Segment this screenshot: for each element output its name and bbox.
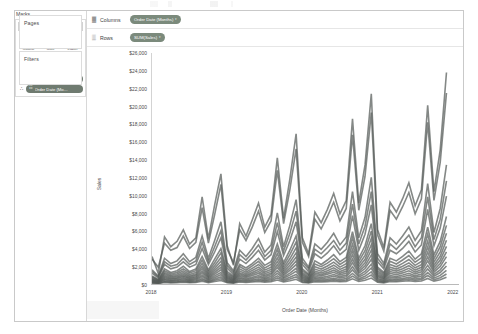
- x-axis-tick: 2021: [372, 289, 383, 295]
- detail-icon: ∴: [18, 87, 24, 92]
- marks-pill-order-date-label: Order Date (Mo…: [35, 87, 68, 92]
- columns-pill-order-date[interactable]: Order Date (Months) ▾: [130, 15, 181, 24]
- x-axis-tick-labels: 20182019202020212022: [151, 289, 459, 299]
- y-axis-tick: $14,000: [129, 158, 147, 163]
- y-axis-tick: $4,000: [132, 247, 147, 252]
- x-axis-tick: 2019: [221, 289, 232, 295]
- rows-pill-sum-sales-label: SUM(Sales): [134, 35, 157, 40]
- visualization-area[interactable]: Sales $26,000$24,000$22,000$20,000$18,00…: [87, 47, 463, 321]
- y-axis-tick: $16,000: [129, 140, 147, 145]
- y-axis-tick: $0: [142, 283, 147, 288]
- y-axis-tick-labels: $26,000$24,000$22,000$20,000$18,000$16,0…: [101, 53, 149, 285]
- filters-shelf[interactable]: Filters: [19, 51, 82, 85]
- y-axis-tick: $26,000: [129, 51, 147, 56]
- pages-shelf-title: Pages: [20, 16, 81, 26]
- pages-shelf[interactable]: Pages: [19, 15, 82, 49]
- top-edge-artifact: [150, 1, 280, 7]
- y-axis-tick: $22,000: [129, 86, 147, 91]
- filters-shelf-title: Filters: [20, 52, 81, 62]
- x-axis-tick: 2020: [296, 289, 307, 295]
- chevron-down-icon: ▾: [159, 36, 161, 39]
- bottom-edge-artifact: [87, 301, 159, 319]
- columns-shelf-label: Columns: [100, 17, 126, 23]
- rows-shelf[interactable]: ▒ Rows SUM(Sales) ▾: [87, 29, 463, 47]
- y-axis-tick: $8,000: [132, 211, 147, 216]
- tableau-worksheet-window: Pages Filters Marks ↗ Automatic ▾ ░ Colo…: [14, 10, 464, 322]
- y-axis-tick: $20,000: [129, 104, 147, 109]
- y-axis-tick: $12,000: [129, 175, 147, 180]
- rows-pill-sum-sales[interactable]: SUM(Sales) ▾: [130, 33, 165, 42]
- x-axis-tick: 2018: [145, 289, 156, 295]
- plot-frame: [151, 53, 459, 285]
- line-chart-svg: [152, 53, 459, 284]
- y-axis-tick: $24,000: [129, 68, 147, 73]
- y-axis-tick: $2,000: [132, 265, 147, 270]
- left-panel: Pages Filters Marks ↗ Automatic ▾ ░ Colo…: [15, 11, 87, 321]
- marks-pill-row-2: ∴ ☷ Order Date (Mo…: [18, 85, 83, 93]
- shelf-area: ▓ Columns Order Date (Months) ▾ ▒ Rows S…: [87, 11, 463, 47]
- grip-icon: ▓: [92, 17, 96, 23]
- y-axis-tick: $6,000: [132, 229, 147, 234]
- y-axis-tick: $10,000: [129, 193, 147, 198]
- columns-pill-order-date-label: Order Date (Months): [134, 17, 173, 22]
- marks-pill-order-date[interactable]: ☷ Order Date (Mo…: [26, 85, 83, 93]
- chevron-down-icon: ▾: [175, 18, 177, 21]
- columns-shelf[interactable]: ▓ Columns Order Date (Months) ▾: [87, 11, 463, 29]
- x-axis-tick: 2022: [447, 289, 458, 295]
- rows-shelf-label: Rows: [100, 35, 126, 41]
- grip-icon: ▒: [92, 35, 96, 41]
- calendar-icon: ☷: [29, 87, 33, 91]
- y-axis-tick: $18,000: [129, 122, 147, 127]
- x-axis-title: Order Date (Months): [151, 307, 459, 313]
